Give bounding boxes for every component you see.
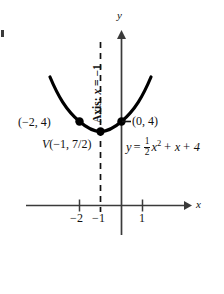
axis-of-symmetry-equals: = −1 xyxy=(91,64,103,89)
equation-term2: + x xyxy=(163,140,180,154)
equation-equals: = xyxy=(134,140,141,154)
axis-of-symmetry-variable: x xyxy=(91,89,103,95)
parabola-figure: y x −2 −1 1 Axis: x = −1 (−2, 4) (0, 4) … xyxy=(0,0,224,294)
x-tick-label-minus-1: −1 xyxy=(92,212,105,224)
axis-of-symmetry-label: Axis: x = −1 xyxy=(92,64,104,123)
point-marker-left xyxy=(75,117,83,125)
equation-term1-exponent: 2 xyxy=(157,138,161,148)
vertex-coordinates: (−1, 7/2) xyxy=(49,137,91,151)
axis-of-symmetry-prefix: Axis: xyxy=(91,95,103,123)
equation-lhs: y xyxy=(126,140,132,154)
x-axis xyxy=(26,201,192,210)
x-axis-label: x xyxy=(196,199,201,210)
x-tick-label-1: 1 xyxy=(139,212,145,224)
fraction-denominator: 2 xyxy=(144,147,151,158)
point-marker-vertex xyxy=(96,127,104,135)
equation-term3: + 4 xyxy=(182,140,200,154)
point-label-right: (0, 4) xyxy=(132,115,158,127)
equation-coefficient-fraction: 12 xyxy=(144,137,151,157)
vertex-label: V(−1, 7/2) xyxy=(42,138,91,150)
fraction-numerator: 1 xyxy=(144,137,151,147)
y-axis-label: y xyxy=(117,10,122,21)
point-label-left: (−2, 4) xyxy=(18,116,51,128)
equation-label: y=12x2+ x+ 4 xyxy=(126,137,200,157)
y-axis xyxy=(117,30,126,235)
x-tick-label-minus-2: −2 xyxy=(70,212,83,224)
